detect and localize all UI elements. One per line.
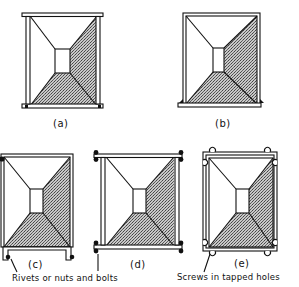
panel-c — [0, 154, 74, 260]
caption-screws-in-tapped-holes: Screws in tapped holes — [177, 272, 280, 282]
label-panel-b: (b) — [215, 118, 231, 129]
label-panel-c: (c) — [28, 259, 43, 270]
label-panel-e: (e) — [234, 258, 249, 269]
panel-a — [22, 13, 103, 108]
diagram-canvas — [0, 0, 299, 287]
panel-b — [178, 13, 264, 107]
leader-line-rivets-c — [11, 259, 17, 272]
label-panel-a: (a) — [53, 118, 68, 129]
panel-e — [203, 147, 277, 255]
leader-line-screws-e — [204, 254, 210, 272]
caption-rivets-or-nuts-and-bolts: Rivets or nuts and bolts — [12, 273, 118, 283]
label-panel-d: (d) — [130, 259, 146, 270]
panel-d — [94, 150, 184, 253]
